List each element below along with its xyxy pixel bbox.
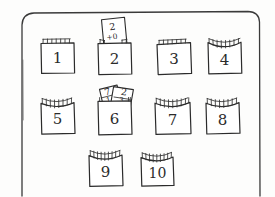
pocket-7-label: 7: [168, 111, 178, 129]
pocket-4[interactable]: 4: [208, 38, 242, 73]
pocket-10[interactable]: 10: [141, 152, 174, 186]
card-in-pocket-2[interactable]: 2 +0: [102, 17, 128, 47]
pocket-5-label: 5: [53, 110, 63, 128]
sketch-canvas: 1 2 +0 2: [0, 0, 275, 197]
pocket-3-label: 3: [169, 50, 179, 68]
pocket-8[interactable]: 8: [206, 98, 240, 134]
pocket-6-label: 6: [110, 110, 120, 128]
pocket-1-label: 1: [53, 49, 63, 67]
pocket-1[interactable]: 1: [41, 39, 75, 74]
pocket-9[interactable]: 9: [89, 150, 123, 186]
pocket-7[interactable]: 7: [155, 98, 191, 135]
pocket-6[interactable]: 6: [98, 97, 132, 134]
pocket-2[interactable]: 2: [98, 39, 132, 74]
pocket-5[interactable]: 5: [41, 98, 75, 134]
pocket-8-label: 8: [218, 111, 228, 129]
pocket-3[interactable]: 3: [157, 39, 192, 75]
pocket-2-label: 2: [110, 50, 120, 68]
pocket-chart-sketch: 1 2 +0 2: [0, 0, 275, 197]
card-in-pocket-2-bottom-text: +0: [106, 32, 118, 42]
pocket-4-label: 4: [220, 51, 230, 69]
pocket-9-label: 9: [101, 163, 111, 181]
pocket-10-label: 10: [149, 165, 167, 181]
